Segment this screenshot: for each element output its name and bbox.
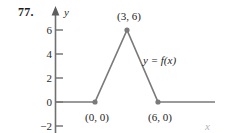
y-tick-label-0: 0	[47, 96, 53, 108]
marked-point-peak	[124, 27, 129, 32]
zero-point-label: (6, 0)	[148, 111, 172, 124]
function-curve	[56, 30, 215, 102]
y-tick-label-2: 2	[47, 72, 53, 84]
graph-svg: 6 4 2 0 −2 y x (3, 6) (0, 0) (6, 0) y = …	[0, 0, 227, 133]
y-axis-arrowhead	[52, 6, 60, 16]
figure-container: 77. 6 4 2 0 −2 y x (3, 6) (0, 0) (6, 0)	[0, 0, 227, 133]
function-label: y = f(x)	[142, 54, 176, 67]
y-tick-label-minus-2: −2	[40, 120, 52, 132]
marked-point-six-zero	[155, 99, 160, 104]
y-axis-label: y	[63, 6, 69, 18]
x-axis-label: x	[204, 120, 210, 132]
marked-point-origin	[92, 99, 97, 104]
y-tick-label-6: 6	[47, 24, 53, 36]
peak-point-label: (3, 6)	[117, 10, 141, 23]
origin-point-label: (0, 0)	[85, 111, 109, 124]
y-tick-label-4: 4	[47, 48, 53, 60]
